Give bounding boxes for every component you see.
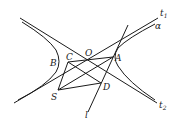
label-t1: t1: [160, 8, 167, 19]
label-A: A: [114, 53, 122, 63]
label-D: D: [102, 82, 110, 92]
label-C: C: [66, 52, 73, 62]
label-alpha: α: [155, 21, 161, 31]
label-B: B: [49, 58, 57, 68]
hyperbola-diagram: t1 α t2 O C B A D S l: [0, 0, 176, 123]
label-l: l: [85, 110, 88, 120]
label-O: O: [85, 48, 93, 58]
label-S: S: [51, 92, 57, 102]
label-t2: t2: [159, 100, 167, 111]
